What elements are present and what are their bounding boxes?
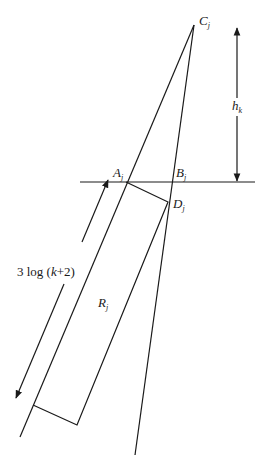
ray-right <box>135 25 194 455</box>
label-r-j: Rj <box>98 296 108 312</box>
length-arrow-lower <box>16 284 64 398</box>
label-h-k: hk <box>232 98 242 116</box>
label-d-j: Dj <box>173 197 185 213</box>
label-a-j: Aj <box>113 166 123 182</box>
label-c-j: Cj <box>199 14 210 30</box>
diagram-svg <box>0 0 267 461</box>
diagram-canvas: Cj hk Aj Bj Dj 3 log (k+2) Rj <box>0 0 267 461</box>
length-arrow-upper <box>82 180 108 242</box>
label-b-j: Bj <box>176 166 186 182</box>
label-length: 3 log (k+2) <box>17 265 75 278</box>
ray-left <box>20 25 194 437</box>
